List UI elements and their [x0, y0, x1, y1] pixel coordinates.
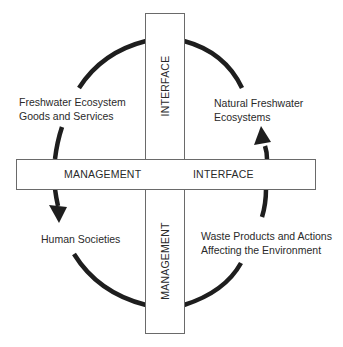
node-natural-freshwater-ecosystems: Natural Freshwater Ecosystems — [214, 96, 303, 124]
vertical-bar-bottom-label: MANAGEMENT — [159, 213, 171, 309]
arc-bottom-left — [74, 254, 146, 305]
node-human-societies: Human Societies — [41, 232, 120, 246]
arrowhead-up-icon — [254, 126, 271, 145]
arc-right-lower — [262, 189, 266, 217]
node-waste-products: Waste Products and Actions Affecting the… — [201, 229, 332, 257]
horizontal-bar-right-label: INTERFACE — [193, 168, 254, 180]
node-line: Natural Freshwater — [214, 96, 303, 110]
arc-left-lower — [55, 189, 58, 206]
arc-right-upper — [265, 146, 267, 159]
node-line: Freshwater Ecosystem — [19, 95, 126, 109]
node-freshwater-goods-services: Freshwater Ecosystem Goods and Services — [19, 95, 126, 123]
node-line: Ecosystems — [214, 110, 303, 124]
node-line: Affecting the Environment — [201, 243, 332, 257]
vertical-bar-top-label: INTERFACE — [159, 50, 171, 122]
node-line: Goods and Services — [19, 109, 126, 123]
horizontal-bar-left-label: MANAGEMENT — [64, 168, 141, 180]
arrowhead-down-icon — [49, 205, 67, 223]
node-line: Waste Products and Actions — [201, 229, 332, 243]
arc-bottom-right — [184, 263, 241, 305]
arc-top-left — [79, 41, 146, 88]
arc-top-right — [184, 41, 242, 88]
node-line: Human Societies — [41, 232, 120, 246]
horizontal-management-bar: MANAGEMENT INTERFACE — [16, 159, 316, 190]
arc-left-upper — [55, 127, 62, 159]
